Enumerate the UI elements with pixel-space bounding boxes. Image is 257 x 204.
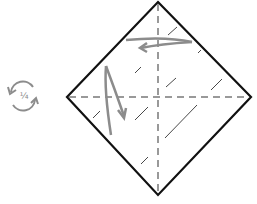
origami-diagram	[0, 0, 257, 204]
rotate-quarter-label: ¼	[12, 91, 36, 101]
